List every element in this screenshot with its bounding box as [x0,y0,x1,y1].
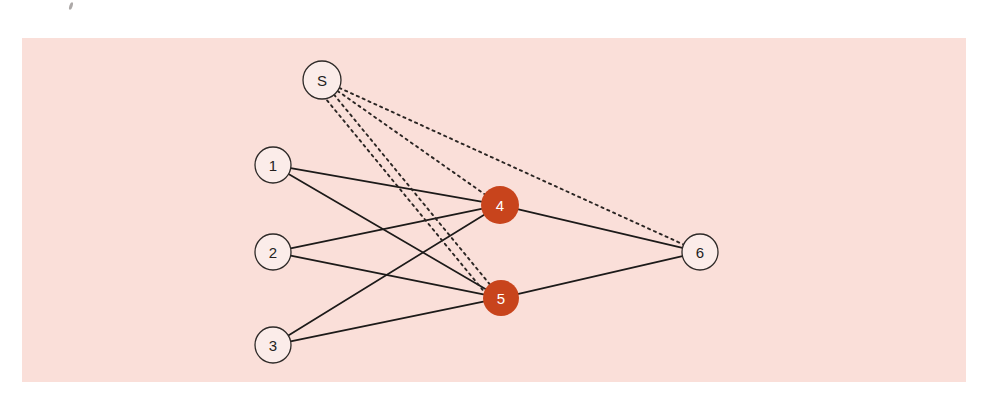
graph-diagram: S123456 [0,0,992,400]
node-5-label: 5 [497,290,505,307]
node-6[interactable]: 6 [682,234,718,270]
node-5[interactable]: 5 [483,280,519,316]
node-s[interactable]: S [303,61,341,99]
node-1-label: 1 [269,157,277,174]
stray-speck-mark [68,2,74,11]
node-6-label: 6 [696,244,704,261]
node-2[interactable]: 2 [255,234,291,270]
node-4-label: 4 [496,197,504,214]
node-s-label: S [317,72,327,89]
node-3[interactable]: 3 [255,327,291,363]
diagram-canvas: S123456 [0,0,992,400]
node-2-label: 2 [269,244,277,261]
node-1[interactable]: 1 [255,147,291,183]
node-4[interactable]: 4 [481,186,519,224]
node-3-label: 3 [269,337,277,354]
